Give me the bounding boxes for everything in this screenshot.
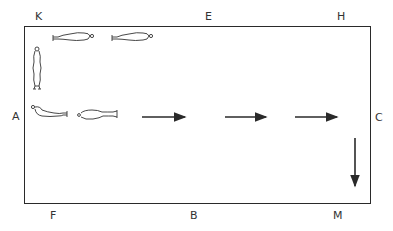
standing-figure-icon — [33, 47, 41, 89]
lying-figure-icon — [112, 33, 153, 41]
figures-and-arrows — [0, 0, 393, 231]
lying-figure-icon — [31, 105, 67, 117]
lying-figure-icon — [53, 33, 94, 41]
lying-figure-icon — [78, 110, 117, 119]
